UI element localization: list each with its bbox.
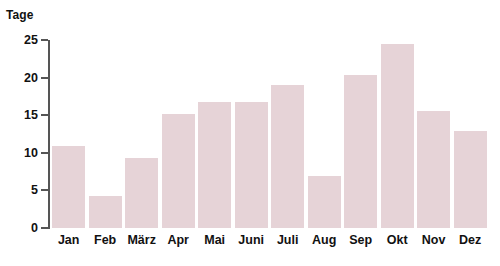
y-axis-tick-label-text: 0 xyxy=(4,222,38,235)
y-axis-tick-label-text: 20 xyxy=(4,72,38,85)
x-axis-label: Feb xyxy=(89,234,122,247)
x-axis-label: März xyxy=(125,234,158,247)
x-axis-label: Aug xyxy=(308,234,341,247)
bar xyxy=(52,146,85,228)
y-axis-tick-label: 15 xyxy=(0,109,38,122)
bar xyxy=(344,75,377,228)
plot-area xyxy=(52,40,490,228)
y-axis-tick-label: 25 xyxy=(0,34,38,47)
y-axis-tick-mark xyxy=(41,152,48,154)
bar xyxy=(235,102,268,228)
y-axis-tick-mark xyxy=(41,39,48,41)
x-axis-label: Dez xyxy=(454,234,487,247)
x-axis-label: Sep xyxy=(344,234,377,247)
bar xyxy=(454,131,487,228)
y-axis-tick-label: 10 xyxy=(0,147,38,160)
y-axis-tick-mark xyxy=(41,227,48,229)
bar xyxy=(417,111,450,228)
bar xyxy=(308,176,341,228)
y-axis-tick-mark xyxy=(41,77,48,79)
y-axis-tick-label-text: 10 xyxy=(4,147,38,160)
bar xyxy=(89,196,122,228)
y-axis-line xyxy=(48,40,50,229)
chart-title xyxy=(150,0,450,2)
y-axis-tick-label: 5 xyxy=(0,184,38,197)
bar xyxy=(271,85,304,228)
y-axis-tick-mark xyxy=(41,189,48,191)
bar xyxy=(198,102,231,228)
y-axis-title: Tage xyxy=(6,8,34,22)
x-axis-label: Mai xyxy=(198,234,231,247)
y-axis-tick-label: 20 xyxy=(0,72,38,85)
x-axis-label: Juli xyxy=(271,234,304,247)
bar xyxy=(125,158,158,228)
y-axis-tick-mark xyxy=(41,114,48,116)
bar xyxy=(381,44,414,228)
x-axis-label: Okt xyxy=(381,234,414,247)
y-axis-tick-label: 0 xyxy=(0,222,38,235)
x-axis-label: Nov xyxy=(417,234,450,247)
bar-chart: Tage 0510152025 JanFebMärzAprMaiJuniJuli… xyxy=(0,0,500,266)
x-axis-label: Juni xyxy=(235,234,268,247)
bar xyxy=(162,114,195,228)
x-axis-label: Jan xyxy=(52,234,85,247)
x-axis-label: Apr xyxy=(162,234,195,247)
y-axis-tick-label-text: 5 xyxy=(4,184,38,197)
y-axis-tick-label-text: 15 xyxy=(4,109,38,122)
y-axis-tick-label-text: 25 xyxy=(4,34,38,47)
